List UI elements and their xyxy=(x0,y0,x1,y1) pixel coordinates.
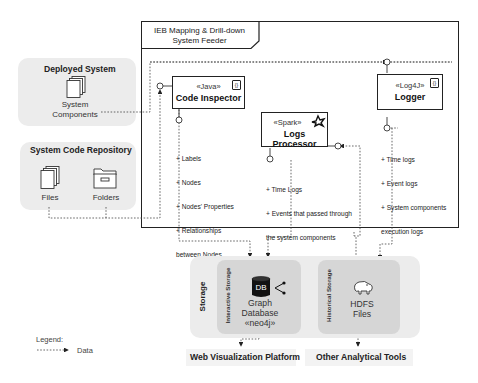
note-line: + Nodes' Properties xyxy=(176,203,234,211)
note-line: + System components xyxy=(381,204,446,212)
logs-processor-stereotype: «Spark» xyxy=(262,118,313,127)
spark-star-icon xyxy=(311,115,325,127)
graph-db-line2: Database xyxy=(232,308,288,318)
note-line: + Nodes xyxy=(176,179,234,187)
code-inspector-name: Code Inspector xyxy=(173,93,244,103)
hdfs-line1: HDFS xyxy=(340,299,384,309)
note-line: the system components xyxy=(266,234,352,242)
share-graph-icon xyxy=(273,281,286,295)
legend-data-label: Data xyxy=(77,346,93,355)
storage-title: Storage xyxy=(198,277,207,317)
hdfs-files-label: HDFS Files xyxy=(340,299,384,319)
note-line: + Time Logs xyxy=(266,186,352,194)
logs-processor-name: Logs Processor xyxy=(262,129,327,149)
note-line: + Relationships xyxy=(176,227,234,235)
note-line: + Labels xyxy=(176,155,234,163)
interactive-storage-label: Interactive Storage xyxy=(224,261,231,331)
historical-storage-label: Historical Storage xyxy=(325,263,332,329)
note-line: + Events that passed through xyxy=(266,210,352,218)
component-icon: {} xyxy=(232,80,241,90)
logger-name: Logger xyxy=(378,92,442,102)
logs-processor-component[interactable]: «Spark» Logs Processor xyxy=(261,112,328,147)
code-inspector-component[interactable]: «Java» Code Inspector {} xyxy=(172,76,245,109)
graph-db-line3: «neo4j» xyxy=(232,318,288,328)
web-visualization-label: Web Visualization Platform xyxy=(190,352,300,362)
code-inspector-note: + Labels + Nodes + Nodes' Properties + R… xyxy=(176,139,234,267)
graph-database-label: Graph Database «neo4j» xyxy=(232,298,288,328)
legend-title: Legend: xyxy=(36,335,63,344)
hdfs-line2: Files xyxy=(340,309,384,319)
component-icon: {} xyxy=(430,78,439,88)
note-line: + Event logs xyxy=(381,180,446,188)
logger-note: + Time logs + Event logs + System compon… xyxy=(381,140,446,244)
logger-component[interactable]: «Log4J» Logger {} xyxy=(377,74,443,110)
other-tools-label: Other Analytical Tools xyxy=(316,352,406,362)
graph-db-line1: Graph xyxy=(232,298,288,308)
db-badge: DB xyxy=(252,283,270,292)
hadoop-elephant-icon[interactable] xyxy=(352,280,374,296)
note-line: + Time logs xyxy=(381,156,446,164)
note-line: execution logs xyxy=(381,228,446,236)
